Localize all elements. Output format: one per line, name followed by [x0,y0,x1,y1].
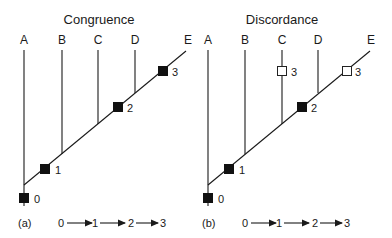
svg-text:3: 3 [344,217,350,229]
svg-text:2: 2 [312,217,318,229]
panel-congruence: Congruence A B C D E 0 1 2 3 (a) 0 1 [18,12,192,229]
svg-text:1: 1 [92,217,98,229]
state-marker-2 [114,103,123,112]
svg-text:0: 0 [242,217,248,229]
svg-text:3: 3 [160,217,166,229]
state-marker-1 [41,165,50,174]
state-label-2: 2 [311,102,317,114]
state-marker-1 [225,165,234,174]
svg-text:2: 2 [128,217,134,229]
state-label-2: 2 [127,102,133,114]
taxon-label-a: A [20,33,28,47]
taxon-label-c: C [278,33,287,47]
taxon-label-e: E [184,33,192,47]
taxon-label-e: E [367,33,375,47]
state-label-0: 0 [34,193,40,205]
panel-title: Congruence [64,12,135,27]
state-label-3: 3 [172,66,178,78]
state-sequence: 0 1 2 3 [58,217,166,229]
state-label-0: 0 [218,193,224,205]
panel-discordance: Discordance A B C D E 0 1 2 3 3 (b) 0 1 … [202,12,375,229]
taxon-label-a: A [204,33,212,47]
state-label-1: 1 [55,164,61,176]
svg-text:1: 1 [276,217,282,229]
taxon-label-d: D [314,33,323,47]
state-marker-0 [20,194,29,203]
state-sequence: 0 1 2 3 [242,217,350,229]
panel-title: Discordance [246,12,318,27]
state-marker-3-open-c [278,67,287,76]
taxon-label-b: B [58,33,66,47]
state-label-1: 1 [239,164,245,176]
state-marker-3-open-e [343,67,352,76]
taxon-label-b: B [241,33,249,47]
state-label-3: 3 [291,66,297,78]
state-label-3: 3 [355,66,361,78]
panel-caption: (a) [18,217,31,229]
cladogram-figure: Congruence A B C D E 0 1 2 3 (a) 0 1 [0,0,392,238]
state-marker-2 [298,103,307,112]
state-marker-3 [159,67,168,76]
panel-caption: (b) [202,217,215,229]
taxon-label-d: D [131,33,140,47]
svg-text:0: 0 [58,217,64,229]
state-marker-0 [204,194,213,203]
taxon-label-c: C [94,33,103,47]
